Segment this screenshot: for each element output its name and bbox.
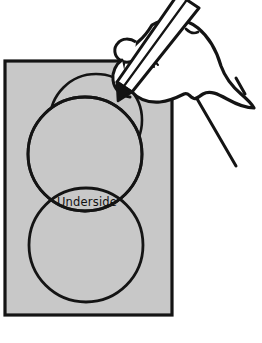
illustration-root: Underside [0, 0, 262, 343]
underside-label: Underside [57, 195, 117, 209]
wrist-line-outer [196, 97, 236, 166]
scene-illustration: Underside [0, 0, 262, 343]
